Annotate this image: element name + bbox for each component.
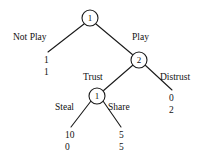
payoff-not-play-player1: 1 (44, 55, 49, 67)
edge-steal (71, 101, 91, 127)
payoff-distrust: 0 2 (169, 93, 174, 116)
action-label-distrust: Distrust (160, 73, 190, 83)
node-player2-label: 2 (131, 56, 147, 65)
payoff-steal: 10 0 (65, 130, 75, 153)
node-player1-second-label: 1 (89, 92, 105, 101)
payoff-distrust-player1: 0 (169, 93, 174, 105)
payoff-share: 5 5 (119, 130, 124, 153)
payoff-distrust-player2: 2 (169, 105, 174, 117)
payoff-share-player1: 5 (119, 130, 124, 142)
payoff-not-play: 1 1 (44, 55, 49, 78)
edge-trust (103, 65, 133, 91)
payoff-not-play-player2: 1 (44, 67, 49, 79)
action-label-share: Share (108, 103, 130, 113)
edge-play (96, 24, 133, 55)
game-tree-figure: 1 2 1 Not Play Play Trust Distrust Steal… (0, 0, 204, 161)
action-label-play: Play (132, 33, 149, 43)
node-root-label: 1 (82, 14, 98, 23)
payoff-steal-player2: 0 (65, 142, 75, 154)
action-label-not-play: Not Play (13, 33, 47, 43)
action-label-steal: Steal (55, 103, 74, 113)
edge-not-play (48, 24, 84, 52)
action-label-trust: Trust (83, 73, 103, 83)
payoff-steal-player1: 10 (65, 130, 75, 142)
payoff-share-player2: 5 (119, 142, 124, 154)
